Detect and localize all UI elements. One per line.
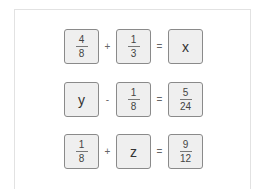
denominator: 12 (180, 153, 191, 164)
equals-sign: = (151, 82, 168, 117)
numerator: 5 (183, 87, 189, 98)
numerator: 1 (131, 34, 137, 45)
variable-box-x[interactable]: x (168, 29, 203, 64)
fraction-bar (76, 151, 88, 152)
numerator: 4 (79, 34, 85, 45)
denominator: 3 (131, 48, 137, 59)
denominator: 24 (180, 101, 191, 112)
fraction-box: 1 8 (64, 134, 99, 169)
plus-operator: + (99, 134, 116, 169)
equals-sign: = (151, 134, 168, 169)
variable-box-z[interactable]: z (116, 134, 151, 169)
fraction-box: 5 24 (168, 82, 203, 117)
equation-row-2: y - 1 8 = 5 24 (64, 82, 204, 117)
plus-operator: + (99, 29, 116, 64)
variable-label: z (130, 144, 137, 160)
denominator: 8 (79, 153, 85, 164)
numerator: 1 (131, 87, 137, 98)
fraction-box: 1 3 (116, 29, 151, 64)
fraction-bar (180, 99, 192, 100)
minus-operator: - (99, 82, 116, 117)
equals-sign: = (151, 29, 168, 64)
fraction-box: 1 8 (116, 82, 151, 117)
fraction-bar (76, 46, 88, 47)
fraction-bar (128, 46, 140, 47)
fraction-box: 4 8 (64, 29, 99, 64)
numerator: 9 (183, 139, 189, 150)
denominator: 8 (131, 101, 137, 112)
variable-label: y (78, 92, 85, 108)
equation-row-1: 4 8 + 1 3 = x (64, 29, 204, 64)
equation-row-3: 1 8 + z = 9 12 (64, 134, 204, 169)
fraction-bar (128, 99, 140, 100)
denominator: 8 (79, 48, 85, 59)
fraction-bar (180, 151, 192, 152)
variable-label: x (182, 39, 189, 55)
fraction-box: 9 12 (168, 134, 203, 169)
numerator: 1 (79, 139, 85, 150)
variable-box-y[interactable]: y (64, 82, 99, 117)
